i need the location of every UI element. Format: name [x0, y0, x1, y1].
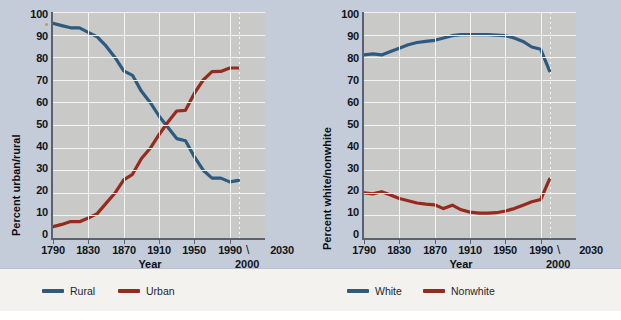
legend-label-nonwhite: Nonwhite: [451, 285, 495, 297]
y-tick-100: 100: [24, 8, 48, 20]
legend-band: Rural Urban White Nonwhite: [0, 268, 621, 311]
gridline-v-r-1950: [505, 12, 506, 238]
legend-label-white: White: [375, 285, 402, 297]
x-tick-r-1990: 1990: [524, 244, 558, 256]
pointer-slash-right: \: [557, 243, 560, 257]
x-tick-r-1870: 1870: [418, 244, 452, 256]
y-tick-70: 70: [24, 74, 48, 86]
y-tick-right-50: 50: [335, 118, 359, 130]
x-tick-1790: 1790: [36, 244, 70, 256]
x-tick-2030: 2030: [265, 244, 299, 256]
y-tick-right-70: 70: [335, 74, 359, 86]
y-tick-40: 40: [24, 140, 48, 152]
scan-artifact-dot: [45, 23, 48, 26]
legend-swatch-white: [347, 289, 369, 293]
y-tick-right-80: 80: [335, 52, 359, 64]
gridline-v-1910: [159, 12, 160, 238]
x-tick-r-1790: 1790: [347, 244, 381, 256]
gridline-v-1990: [230, 12, 231, 238]
gridline-v-r-1870: [435, 12, 436, 238]
x-axis-line-right: [362, 238, 576, 240]
y-tick-20: 20: [24, 184, 48, 196]
y-axis-title-left: Percent urban/rural: [10, 135, 22, 236]
y-tick-10: 10: [24, 206, 48, 218]
y-tick-0: 0: [24, 228, 48, 240]
plot-area-right: [364, 12, 576, 238]
y-tick-right-10: 10: [335, 206, 359, 218]
y-tick-right-0: 0: [335, 228, 359, 240]
gridline-v-r-1990: [541, 12, 542, 238]
y-tick-60: 60: [24, 96, 48, 108]
y-tick-50: 50: [24, 118, 48, 130]
chart-panel-white-nonwhite: Percent white/nonwhite 100 90 80 70 60 5…: [311, 0, 621, 279]
gridline-v-r-1830: [399, 12, 400, 238]
x-tick-1910: 1910: [142, 244, 176, 256]
y-tick-right-90: 90: [335, 30, 359, 42]
legend-swatch-urban: [118, 289, 140, 293]
reference-line-2000-right: [550, 12, 551, 238]
legend-swatch-rural: [42, 289, 64, 293]
gridline-v-1830: [88, 12, 89, 238]
y-tick-right-30: 30: [335, 162, 359, 174]
y-tick-right-40: 40: [335, 140, 359, 152]
x-tick-r-2030: 2030: [574, 244, 608, 256]
y-tick-30: 30: [24, 162, 48, 174]
reference-line-2000: [239, 12, 240, 238]
gridline-v-1950: [194, 12, 195, 238]
series-line-white: [364, 35, 550, 71]
y-tick-90: 90: [24, 30, 48, 42]
x-tick-1870: 1870: [107, 244, 141, 256]
legend-item-rural[interactable]: Rural: [42, 285, 95, 297]
legend-item-white[interactable]: White: [347, 285, 402, 297]
x-tick-r-1830: 1830: [382, 244, 416, 256]
x-tick-r-1910: 1910: [453, 244, 487, 256]
legend-item-nonwhite[interactable]: Nonwhite: [423, 285, 495, 297]
x-tick-r-1950: 1950: [488, 244, 522, 256]
x-tick-1950: 1950: [177, 244, 211, 256]
gridline-v-1870: [124, 12, 125, 238]
figure-root: Percent urban/rural 100 90 80 70 60 50 4…: [0, 0, 621, 320]
legend-label-urban: Urban: [146, 285, 175, 297]
y-tick-right-20: 20: [335, 184, 359, 196]
legend-swatch-nonwhite: [423, 289, 445, 293]
y-tick-right-100: 100: [335, 8, 359, 20]
series-line-nonwhite: [364, 179, 550, 213]
plot-area-left: [53, 12, 265, 238]
bottom-white-strip: [0, 311, 621, 320]
y-tick-right-60: 60: [335, 96, 359, 108]
legend-item-urban[interactable]: Urban: [118, 285, 175, 297]
x-tick-1990: 1990: [213, 244, 247, 256]
chart-panel-urban-rural: Percent urban/rural 100 90 80 70 60 50 4…: [0, 0, 310, 279]
x-axis-line-left: [51, 238, 265, 240]
legend-label-rural: Rural: [70, 285, 95, 297]
pointer-slash-left: \: [246, 243, 249, 257]
y-axis-title-right: Percent white/nonwhite: [321, 127, 333, 250]
x-tick-1830: 1830: [71, 244, 105, 256]
gridline-v-r-1910: [470, 12, 471, 238]
y-tick-80: 80: [24, 52, 48, 64]
